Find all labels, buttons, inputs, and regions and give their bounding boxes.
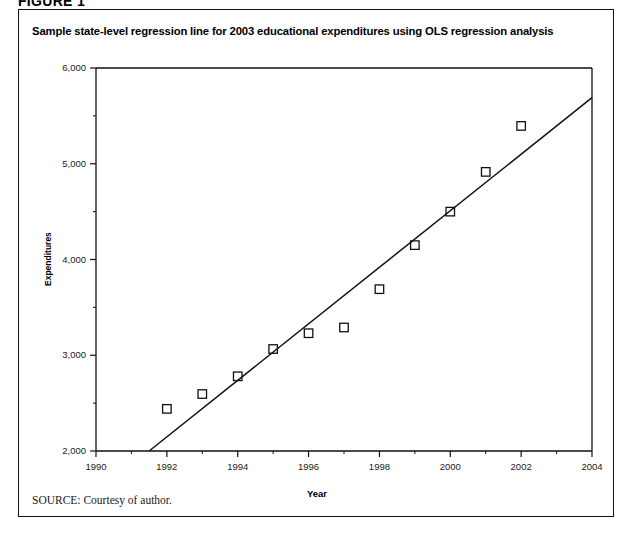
x-axis-tick-label: 1992 (145, 461, 189, 472)
chart-svg (19, 10, 615, 518)
source-label: SOURCE: (32, 494, 81, 506)
data-point-marker (163, 405, 172, 414)
x-axis-tick-label: 1990 (74, 461, 118, 472)
x-axis-tick-label: 2004 (570, 461, 614, 472)
figure-container: Sample state-level regression line for 2… (18, 9, 614, 517)
data-point-marker (517, 122, 526, 130)
data-point-marker (375, 285, 384, 294)
data-point-marker (233, 372, 242, 381)
data-point-marker (481, 168, 490, 177)
x-axis-tick-label: 2002 (499, 461, 543, 472)
x-axis-tick-label: 1996 (287, 461, 331, 472)
x-axis-tick-label: 1994 (216, 461, 260, 472)
x-axis-tick-label: 2000 (428, 461, 472, 472)
y-axis-tick-label: 2,000 (40, 445, 86, 456)
y-axis-tick-label: 3,000 (40, 349, 86, 360)
data-point-markers (163, 122, 526, 413)
figure-number-label: FIGURE 1 (18, 0, 85, 9)
y-axis-title: Expenditures (43, 232, 53, 286)
source-text: Courtesy of author. (83, 494, 171, 506)
data-point-marker (198, 390, 207, 399)
y-axis-tick-label: 5,000 (40, 158, 86, 169)
regression-line (149, 98, 592, 451)
data-point-marker (340, 323, 349, 332)
source-note: SOURCE: Courtesy of author. (32, 494, 172, 506)
y-axis-tick-label: 6,000 (40, 62, 86, 73)
chart-plot-area: 2,0003,0004,0005,0006,000199019921994199… (19, 10, 615, 518)
data-point-marker (304, 329, 313, 338)
x-axis-tick-label: 1998 (357, 461, 401, 472)
